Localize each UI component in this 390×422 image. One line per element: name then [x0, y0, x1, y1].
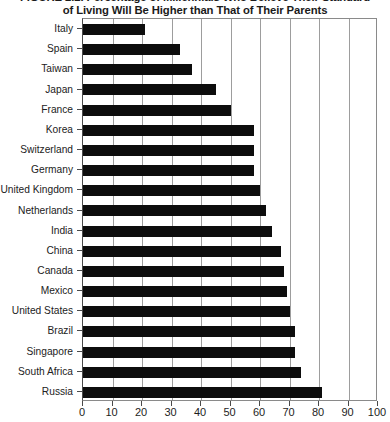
bar-singapore	[83, 347, 295, 358]
y-axis-labels: ItalySpainTaiwanJapanFranceKoreaSwitzerl…	[0, 18, 78, 401]
bar-row	[83, 301, 376, 322]
bar-row	[83, 120, 376, 141]
bar-row	[83, 180, 376, 201]
y-axis-label-spain: Spain	[47, 38, 73, 59]
y-axis-label-korea: Korea	[46, 119, 73, 140]
y-axis-label-france: France	[41, 99, 73, 120]
x-axis-labels: 0102030405060708090100	[82, 406, 377, 422]
x-axis-label-70: 70	[282, 406, 294, 418]
bar-canada	[83, 266, 284, 277]
bar-row	[83, 39, 376, 60]
bar-netherlands	[83, 205, 266, 216]
bar-row	[83, 79, 376, 100]
bar-spain	[83, 44, 180, 55]
y-axis-label-italy: Italy	[54, 18, 73, 39]
bar-france	[83, 105, 231, 116]
bar-russia	[83, 387, 322, 398]
bar-germany	[83, 165, 254, 176]
x-axis-label-80: 80	[312, 406, 324, 418]
y-axis-label-singapore: Singapore	[27, 341, 73, 362]
bar-row	[83, 321, 376, 342]
y-axis-label-brazil: Brazil	[48, 320, 73, 341]
x-axis-label-50: 50	[223, 406, 235, 418]
bar-china	[83, 246, 281, 257]
bar-united-kingdom	[83, 185, 260, 196]
chart-title: FIGURE 2.2. Percentage of Millennials Wh…	[0, 0, 390, 17]
bar-row	[83, 100, 376, 121]
y-axis-label-taiwan: Taiwan	[41, 58, 73, 79]
bars-layer	[83, 19, 376, 400]
x-axis-label-100: 100	[368, 406, 386, 418]
bar-india	[83, 226, 272, 237]
x-axis-label-0: 0	[79, 406, 85, 418]
y-axis-label-india: India	[51, 220, 73, 241]
bar-row	[83, 221, 376, 242]
bar-row	[83, 200, 376, 221]
bar-mexico	[83, 286, 287, 297]
bar-row	[83, 140, 376, 161]
y-axis-label-netherlands: Netherlands	[18, 199, 73, 220]
bar-row	[83, 59, 376, 80]
bar-row	[83, 261, 376, 282]
y-axis-label-switzerland: Switzerland	[20, 139, 73, 160]
chart-title-line-2: of Living Will Be Higher than That of Th…	[0, 4, 390, 17]
bar-row	[83, 241, 376, 262]
plot-area	[82, 18, 377, 401]
y-axis-label-united-states: United States	[12, 300, 73, 321]
y-axis-label-germany: Germany	[31, 159, 73, 180]
x-axis-label-20: 20	[135, 406, 147, 418]
bar-taiwan	[83, 64, 192, 75]
bar-row	[83, 382, 376, 403]
y-axis-label-mexico: Mexico	[41, 280, 73, 301]
bar-united-states	[83, 306, 290, 317]
y-axis-label-south-africa: South Africa	[18, 361, 73, 382]
bar-row	[83, 362, 376, 383]
y-axis-label-japan: Japan	[45, 78, 73, 99]
bar-japan	[83, 84, 216, 95]
bar-row	[83, 19, 376, 40]
y-axis-label-russia: Russia	[42, 381, 73, 402]
bar-italy	[83, 24, 145, 35]
bar-row	[83, 160, 376, 181]
y-axis-label-china: China	[46, 240, 73, 261]
bar-brazil	[83, 326, 295, 337]
x-axis-label-60: 60	[253, 406, 265, 418]
y-axis-label-united-kingdom: United Kingdom	[1, 179, 74, 200]
y-axis-label-canada: Canada	[37, 260, 73, 281]
x-axis-label-30: 30	[164, 406, 176, 418]
bar-row	[83, 342, 376, 363]
x-axis-label-90: 90	[341, 406, 353, 418]
bar-korea	[83, 125, 254, 136]
x-axis-label-10: 10	[105, 406, 117, 418]
bar-south-africa	[83, 367, 301, 378]
bar-switzerland	[83, 145, 254, 156]
bar-row	[83, 281, 376, 302]
x-axis-label-40: 40	[194, 406, 206, 418]
figure-container: FIGURE 2.2. Percentage of Millennials Wh…	[0, 0, 390, 422]
